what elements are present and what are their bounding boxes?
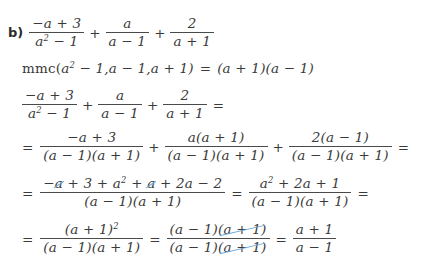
fraction-3: 2 a + 1 <box>170 16 214 49</box>
math-solution-worksheet: b) −a + 3 a2 − 1 + a a − 1 + 2 a + 1 mmc… <box>0 0 431 276</box>
numerator: a + 1 <box>293 222 337 237</box>
lcm-argument-3: a + 1) <box>151 60 194 76</box>
numerator: (a + 1)2 <box>62 222 122 237</box>
equals-sign: = <box>270 231 293 247</box>
lcm-argument-2: a − 1, <box>109 60 151 76</box>
numerator: a2 + 2a + 1 <box>257 176 344 191</box>
leading-equals-sign: = <box>22 185 40 201</box>
numerator: a(a + 1) <box>185 130 248 145</box>
denominator: a2 − 1 <box>25 106 74 121</box>
fraction-3-final-result: a + 1 a − 1 <box>293 222 337 255</box>
lcm-result: (a + 1)(a − 1) <box>217 60 314 76</box>
denominator: a + 1 <box>170 34 214 49</box>
fraction-1: −a + 3 a2 − 1 <box>22 88 77 121</box>
line-original-expression: b) −a + 3 a2 − 1 + a a − 1 + 2 a + 1 <box>8 16 214 49</box>
denominator: a − 1 <box>106 34 150 49</box>
operator-plus: + <box>77 97 98 113</box>
cancel-mark-term-a: a <box>147 176 155 191</box>
denominator: (a − 1)(a + 1) <box>289 148 392 163</box>
denominator: a2 − 1 <box>32 34 81 49</box>
operator-plus: + <box>268 139 289 155</box>
numerator: −a + 3 <box>22 88 77 103</box>
equals-sign: = <box>194 60 217 76</box>
numerator: 2(a − 1) <box>309 130 372 145</box>
cancel-mark-term-a: a <box>55 176 63 191</box>
fraction-3: 2(a − 1) (a − 1)(a + 1) <box>289 130 392 163</box>
numerator: 2 <box>185 16 200 31</box>
problem-label: b) <box>8 25 23 40</box>
fraction-2: a a − 1 <box>98 88 142 121</box>
fraction-3: 2 a + 1 <box>163 88 207 121</box>
operator-plus: + <box>84 25 105 41</box>
trailing-equals-sign: = <box>351 185 374 201</box>
denominator: (a − 1)(a + 1) <box>249 194 352 209</box>
cancel-mark-factor-a-plus-1: (a + 1) <box>218 222 266 237</box>
denominator: (a − 1)(a + 1) <box>167 240 270 255</box>
operator-plus: + <box>143 139 164 155</box>
line-restated-expression: −a + 3 a2 − 1 + a a − 1 + 2 a + 1 = <box>22 88 230 121</box>
fraction-2: a a − 1 <box>106 16 150 49</box>
line-expanded-numerator-step: = −a + 3 + a2 + a + 2a − 2 (a − 1)(a + 1… <box>22 176 375 209</box>
cancel-mark-factor-a-plus-1: (a + 1) <box>218 240 266 255</box>
line-common-denominator-step: = −a + 3 (a − 1)(a + 1) + a(a + 1) (a − … <box>22 130 415 163</box>
denominator: (a − 1)(a + 1) <box>81 194 184 209</box>
line-lcm-statement: mmc( a2 − 1, a − 1, a + 1) = (a + 1)(a −… <box>22 60 314 76</box>
fraction-2-with-cancellation: (a − 1)(a + 1) (a − 1)(a + 1) <box>167 222 270 255</box>
numerator: (a − 1)(a + 1) <box>167 222 270 237</box>
numerator: 2 <box>178 88 193 103</box>
fraction-1: −a + 3 (a − 1)(a + 1) <box>40 130 143 163</box>
fraction-1: (a + 1)2 (a − 1)(a + 1) <box>40 222 143 255</box>
numerator: a <box>120 16 134 31</box>
operator-plus: + <box>149 25 170 41</box>
numerator: −a + 3 + a2 + a + 2a − 2 <box>40 176 225 191</box>
denominator: (a − 1)(a + 1) <box>165 148 268 163</box>
fraction-2: a(a + 1) (a − 1)(a + 1) <box>165 130 268 163</box>
denominator: a − 1 <box>98 106 142 121</box>
lcm-function-name: mmc( <box>22 60 61 76</box>
lcm-argument-1: a2 − 1, <box>61 60 109 76</box>
fraction-1: −a + 3 a2 − 1 <box>29 16 84 49</box>
denominator: (a − 1)(a + 1) <box>40 240 143 255</box>
leading-equals-sign: = <box>22 231 40 247</box>
trailing-equals-sign: = <box>392 139 415 155</box>
equals-sign: = <box>143 231 166 247</box>
denominator: (a − 1)(a + 1) <box>40 148 143 163</box>
numerator: a <box>113 88 127 103</box>
denominator: a + 1 <box>163 106 207 121</box>
fraction-1: −a + 3 + a2 + a + 2a − 2 (a − 1)(a + 1) <box>40 176 225 209</box>
fraction-2: a2 + 2a + 1 (a − 1)(a + 1) <box>249 176 352 209</box>
leading-equals-sign: = <box>22 139 40 155</box>
equals-sign: = <box>225 185 248 201</box>
line-final-simplification-step: = (a + 1)2 (a − 1)(a + 1) = (a − 1)(a + … <box>22 222 336 255</box>
numerator: −a + 3 <box>64 130 119 145</box>
trailing-equals-sign: = <box>207 97 230 113</box>
denominator: a − 1 <box>293 240 337 255</box>
operator-plus: + <box>142 97 163 113</box>
numerator: −a + 3 <box>29 16 84 31</box>
